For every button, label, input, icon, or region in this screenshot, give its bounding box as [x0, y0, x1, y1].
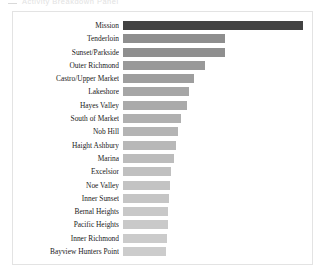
bar-track	[123, 181, 170, 190]
bar-track	[123, 194, 169, 203]
bar-row: Castro/Upper Market	[13, 72, 313, 85]
bar-track	[123, 74, 194, 83]
chart-panel: MissionTenderloinSunset/ParksideOuter Ri…	[12, 11, 313, 265]
bar-track	[123, 167, 171, 176]
bar-row: Bernal Heights	[13, 205, 313, 218]
bar-category-label: Inner Richmond	[13, 232, 119, 245]
bar-category-label: Castro/Upper Market	[13, 72, 119, 85]
bar-track	[123, 114, 181, 123]
bar-category-label: Excelsior	[13, 165, 119, 178]
bar-fill[interactable]	[123, 87, 189, 96]
bar-fill[interactable]	[123, 141, 176, 150]
bar-category-label: Haight Ashbury	[13, 139, 119, 152]
bar-fill[interactable]	[123, 48, 225, 57]
bar-category-label: South of Market	[13, 112, 119, 125]
bar-row: Marina	[13, 152, 313, 165]
bar-track	[123, 154, 174, 163]
bar-row: South of Market	[13, 112, 313, 125]
bar-track	[123, 61, 205, 70]
bar-row: Pacific Heights	[13, 218, 313, 231]
bar-row: Excelsior	[13, 165, 313, 178]
menu-dash-icon	[8, 3, 17, 4]
bar-row: Noe Valley	[13, 179, 313, 192]
bar-row: Lakeshore	[13, 85, 313, 98]
bar-category-label: Bayview Hunters Point	[13, 245, 119, 258]
bar-fill[interactable]	[123, 61, 205, 70]
bar-fill[interactable]	[123, 74, 194, 83]
bar-track	[123, 87, 189, 96]
bar-fill[interactable]	[123, 207, 168, 216]
bar-track	[123, 34, 225, 43]
clipped-header-strip: Activity Breakdown Panel	[0, 0, 323, 9]
bar-fill[interactable]	[123, 101, 187, 110]
bar-fill[interactable]	[123, 234, 167, 243]
bar-fill[interactable]	[123, 167, 171, 176]
bar-category-label: Hayes Valley	[13, 99, 119, 112]
bar-category-label: Bernal Heights	[13, 205, 119, 218]
bar-row: Nob Hill	[13, 125, 313, 138]
bar-fill[interactable]	[123, 181, 170, 190]
bar-track	[123, 48, 225, 57]
bar-category-label: Pacific Heights	[13, 218, 119, 231]
bar-track	[123, 21, 303, 30]
bar-fill[interactable]	[123, 114, 181, 123]
bar-track	[123, 220, 168, 229]
bar-category-label: Tenderloin	[13, 32, 119, 45]
bar-fill[interactable]	[123, 127, 178, 136]
bar-track	[123, 127, 178, 136]
bar-fill[interactable]	[123, 194, 169, 203]
bar-chart-plot-area: MissionTenderloinSunset/ParksideOuter Ri…	[13, 19, 313, 262]
bar-category-label: Outer Richmond	[13, 59, 119, 72]
bar-fill[interactable]	[123, 220, 168, 229]
bar-category-label: Sunset/Parkside	[13, 46, 119, 59]
bar-row: Inner Richmond	[13, 232, 313, 245]
bar-track	[123, 207, 168, 216]
bar-track	[123, 247, 166, 256]
bar-category-label: Lakeshore	[13, 85, 119, 98]
bar-track	[123, 141, 176, 150]
bar-fill[interactable]	[123, 247, 166, 256]
bar-track	[123, 234, 167, 243]
bar-category-label: Marina	[13, 152, 119, 165]
bar-category-label: Nob Hill	[13, 125, 119, 138]
bar-fill[interactable]	[123, 34, 225, 43]
bar-fill[interactable]	[123, 21, 303, 30]
bar-category-label: Inner Sunset	[13, 192, 119, 205]
bar-row: Bayview Hunters Point	[13, 245, 313, 258]
bar-category-label: Mission	[13, 19, 119, 32]
bar-row: Tenderloin	[13, 32, 313, 45]
clipped-header-title: Activity Breakdown Panel	[22, 0, 119, 6]
bar-track	[123, 101, 187, 110]
bar-row: Sunset/Parkside	[13, 46, 313, 59]
bar-fill[interactable]	[123, 154, 174, 163]
bar-row: Inner Sunset	[13, 192, 313, 205]
bar-row: Mission	[13, 19, 313, 32]
bar-category-label: Noe Valley	[13, 179, 119, 192]
bar-row: Haight Ashbury	[13, 139, 313, 152]
bar-row: Hayes Valley	[13, 99, 313, 112]
bar-row: Outer Richmond	[13, 59, 313, 72]
